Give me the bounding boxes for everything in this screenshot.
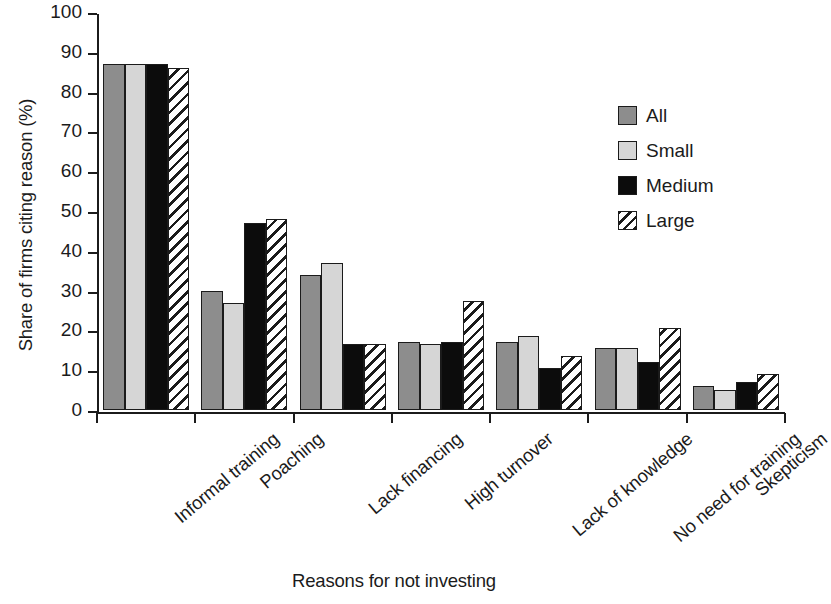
bar xyxy=(146,64,168,410)
legend-item: Small xyxy=(618,133,778,168)
y-axis-line xyxy=(97,14,99,413)
y-axis-tick: 40 xyxy=(88,252,97,254)
bar xyxy=(561,356,583,410)
bar xyxy=(496,342,518,410)
y-axis-tick: 20 xyxy=(88,331,97,333)
bar xyxy=(736,382,758,410)
x-axis-tick xyxy=(489,413,491,423)
bar xyxy=(420,344,442,410)
y-axis-title: Share of firms citing reason (%) xyxy=(15,45,37,405)
bar-group xyxy=(398,12,484,410)
bar-group xyxy=(496,12,582,410)
y-axis-tick-label: 60 xyxy=(61,159,82,183)
bar xyxy=(714,390,736,410)
bar xyxy=(693,386,715,410)
bar xyxy=(244,223,266,410)
y-axis-tick: 90 xyxy=(88,53,97,55)
y-axis-tick-label: 70 xyxy=(61,119,82,143)
x-axis-tick xyxy=(784,413,786,423)
bar xyxy=(616,348,638,410)
bar xyxy=(125,64,147,410)
x-axis-tick xyxy=(293,413,295,423)
bar xyxy=(638,362,660,410)
bar xyxy=(441,342,463,410)
y-axis-tick-label: 30 xyxy=(61,279,82,303)
x-axis-tick xyxy=(391,413,393,423)
bar xyxy=(659,328,681,410)
y-axis-tick-label: 10 xyxy=(61,358,82,382)
x-axis-category-label: High turnover xyxy=(460,428,557,515)
x-axis-tick xyxy=(587,413,589,423)
y-axis-tick: 100 xyxy=(88,13,97,15)
legend-swatch-icon xyxy=(618,176,637,195)
bar xyxy=(300,275,322,410)
bar xyxy=(321,263,343,410)
bar xyxy=(343,344,365,410)
bar xyxy=(201,291,223,410)
y-axis-tick: 60 xyxy=(88,172,97,174)
legend-swatch-icon xyxy=(618,141,637,160)
bar xyxy=(398,342,420,410)
x-axis-line xyxy=(97,412,785,414)
y-axis-tick: 80 xyxy=(88,93,97,95)
y-axis-tick: 50 xyxy=(88,212,97,214)
y-axis-tick-label: 40 xyxy=(61,239,82,263)
legend-item-label: Medium xyxy=(646,175,714,197)
bar xyxy=(266,219,288,410)
y-axis-tick-label: 50 xyxy=(61,199,82,223)
legend-item-label: All xyxy=(646,105,667,127)
y-axis-tick: 10 xyxy=(88,371,97,373)
bar xyxy=(463,301,485,410)
x-axis-tick xyxy=(194,413,196,423)
legend-swatch-icon xyxy=(618,211,637,230)
x-axis-tick xyxy=(686,413,688,423)
bar xyxy=(757,374,779,410)
y-axis-tick-label: 80 xyxy=(61,80,82,104)
legend-item: Large xyxy=(618,203,778,238)
bar-group xyxy=(201,12,287,410)
x-axis-category-label: Lack financing xyxy=(364,428,467,519)
bar xyxy=(518,336,540,410)
bar xyxy=(168,68,190,410)
y-axis-tick-label: 20 xyxy=(61,318,82,342)
bar xyxy=(595,348,617,410)
legend-item: All xyxy=(618,98,778,133)
bar-group xyxy=(103,12,189,410)
y-axis-tick: 70 xyxy=(88,132,97,134)
y-axis-tick: 30 xyxy=(88,292,97,294)
legend: AllSmallMediumLarge xyxy=(618,98,778,238)
x-axis-title: Reasons for not investing xyxy=(0,570,788,592)
bar xyxy=(539,368,561,410)
bar xyxy=(364,344,386,410)
legend-item: Medium xyxy=(618,168,778,203)
bar-group xyxy=(300,12,386,410)
y-axis-tick-label: 90 xyxy=(61,40,82,64)
legend-swatch-icon xyxy=(618,106,637,125)
y-axis-tick-label: 0 xyxy=(71,398,82,422)
legend-item-label: Small xyxy=(646,140,694,162)
y-axis-tick-label: 100 xyxy=(50,0,82,24)
bar xyxy=(223,303,245,410)
x-axis-tick xyxy=(96,413,98,423)
legend-item-label: Large xyxy=(646,210,695,232)
bar xyxy=(103,64,125,410)
